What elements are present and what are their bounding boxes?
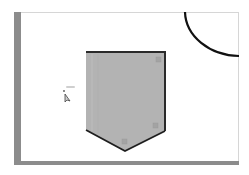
canvas-scene [0, 0, 249, 175]
selection-handle[interactable] [156, 57, 161, 62]
arrow-pointer-icon [63, 90, 70, 102]
shield-shape[interactable] [86, 52, 165, 151]
quarter-circle-arc[interactable] [185, 12, 239, 56]
selection-handle[interactable] [122, 139, 127, 144]
selection-handle[interactable] [153, 123, 158, 128]
cursor-tooltip [66, 86, 75, 88]
